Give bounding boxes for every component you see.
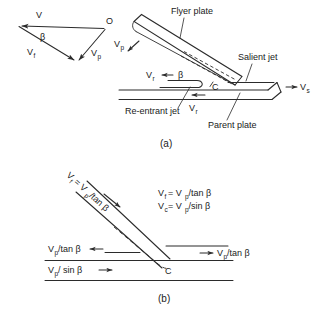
- svg-text:/sin β: /sin β: [189, 201, 211, 211]
- caption-b: (b): [158, 293, 170, 304]
- collision-point-c-a: C: [210, 82, 219, 92]
- parent-plate-shape: [119, 83, 281, 100]
- svg-text:s: s: [307, 87, 311, 94]
- svg-text:C: C: [212, 82, 219, 92]
- flyer-plate-label-group: Flyer plate: [171, 6, 213, 38]
- parent-plate-right-cap: [277, 83, 281, 93]
- svg-text:f: f: [34, 52, 36, 59]
- salient-jet-leader: [246, 64, 252, 81]
- diagram-b-right-group: V p /tan β: [200, 248, 250, 261]
- vector-vp-label: V p: [91, 48, 102, 61]
- vector-v-label: V: [36, 10, 42, 20]
- parent-plate-right-edge-top: [268, 83, 277, 91]
- caption-a: (a): [160, 138, 172, 149]
- parent-plate-right-edge-bottom: [272, 92, 281, 100]
- angle-beta-label: β: [40, 32, 45, 42]
- svg-text:V: V: [91, 48, 97, 58]
- vector-v-line: [22, 26, 104, 29]
- svg-text:= V: = V: [168, 188, 182, 198]
- reentrant-jet-shape: [160, 81, 202, 88]
- svg-text:V: V: [158, 201, 164, 211]
- svg-text:V: V: [48, 265, 54, 275]
- vector-vf-label: V f: [27, 47, 36, 59]
- salient-jet-label-group: Salient jet: [238, 52, 278, 81]
- svg-text:V: V: [114, 39, 120, 49]
- svg-text:f: f: [165, 193, 167, 200]
- svg-text:/tan β: /tan β: [58, 244, 81, 254]
- reentrant-jet-label-group: Re-entrant jet: [125, 87, 190, 116]
- figure-container: V β V f V p O: [0, 0, 325, 309]
- svg-text:/ sin β: / sin β: [58, 265, 82, 275]
- svg-text:/tan β: /tan β: [227, 248, 250, 258]
- svg-text:V: V: [158, 188, 164, 198]
- svg-text:= V: = V: [168, 201, 182, 211]
- svg-text:/tan β: /tan β: [189, 188, 212, 198]
- svg-text:= V: = V: [72, 177, 89, 194]
- diagram-b-equation-2: V c = V p /sin β: [158, 201, 210, 214]
- svg-text:r: r: [153, 75, 156, 82]
- diagram-a-beta-label: β: [178, 70, 183, 80]
- flyer-plate-label: Flyer plate: [171, 6, 213, 16]
- svg-text:V: V: [217, 248, 223, 258]
- diagram-b-left-lower-group: V p / sin β: [48, 265, 112, 278]
- diagram-b: C V f = V p /tan β V f = V p /tan β V: [45, 170, 250, 304]
- reentrant-jet-label: Re-entrant jet: [125, 106, 180, 116]
- svg-text:V: V: [48, 244, 54, 254]
- parent-plate-label: Parent plate: [208, 120, 257, 130]
- vp-arrow-a: [128, 41, 139, 51]
- diagram-b-incline-label-group: V f = V p /tan β: [63, 170, 111, 215]
- diagram-a: C β V p V r V r: [114, 6, 311, 149]
- diagram-b-equation-1: V f = V p /tan β: [158, 188, 211, 201]
- salient-jet-label: Salient jet: [238, 52, 278, 62]
- reentrant-jet-path: [160, 81, 202, 88]
- svg-text:V: V: [146, 70, 152, 80]
- vr-bottom-arrow-group: V r: [189, 95, 205, 115]
- svg-text:V: V: [27, 47, 33, 57]
- vs-arrow-group: V s: [286, 82, 311, 94]
- flyer-plate-leader: [180, 18, 184, 38]
- svg-text:p: p: [121, 44, 125, 52]
- parent-plate-leader: [227, 93, 240, 120]
- svg-text:V: V: [189, 103, 195, 113]
- collision-point-c-b: C: [165, 266, 172, 276]
- figure-svg: V β V f V p O: [0, 0, 325, 309]
- svg-text:p: p: [98, 53, 102, 61]
- svg-text:V: V: [300, 82, 306, 92]
- velocity-triangle: V β V f V p O: [19, 10, 113, 61]
- parent-plate-label-group: Parent plate: [208, 93, 257, 130]
- svg-text:r: r: [196, 108, 199, 115]
- point-o-label: O: [106, 16, 113, 26]
- svg-text:/tan β: /tan β: [87, 190, 111, 213]
- diagram-b-left-upper-group: V p /tan β: [48, 244, 103, 257]
- vp-arrow-group-a: V p: [114, 39, 139, 52]
